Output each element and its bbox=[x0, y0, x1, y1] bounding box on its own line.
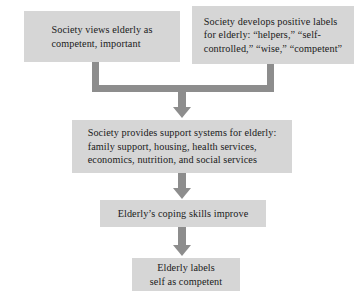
flowchart-node-labels-self-label: Elderly labels self as competent bbox=[150, 261, 222, 288]
connector-arrow-to-support-systems-head bbox=[173, 107, 191, 118]
flowchart-node-positive-labels: Society develops positive labels for eld… bbox=[192, 6, 354, 64]
connector-arrow-to-coping-skills-shaft bbox=[178, 173, 186, 189]
flowchart-node-coping-skills-label: Elderly’s coping skills improve bbox=[118, 207, 249, 220]
flowchart-node-coping-skills: Elderly’s coping skills improve bbox=[100, 200, 266, 227]
connector-arrow-to-support-systems-shaft bbox=[178, 92, 186, 108]
flowchart-node-support-systems: Society provides support systems for eld… bbox=[72, 120, 292, 173]
connector-bracket-horizontal-bar bbox=[92, 85, 274, 92]
connector-bracket-left-stem bbox=[92, 62, 99, 85]
connector-bracket-right-stem bbox=[267, 64, 274, 85]
flowchart-diagram: Society views elderly as competent, impo… bbox=[0, 0, 360, 303]
connector-arrow-to-labels-self-head bbox=[173, 245, 191, 256]
connector-arrow-to-labels-self-shaft bbox=[178, 227, 186, 246]
flowchart-node-labels-self: Elderly labels self as competent bbox=[132, 258, 240, 291]
flowchart-node-society-views: Society views elderly as competent, impo… bbox=[24, 11, 180, 62]
flowchart-node-positive-labels-label: Society develops positive labels for eld… bbox=[204, 15, 342, 55]
connector-arrow-to-coping-skills-head bbox=[173, 188, 191, 199]
flowchart-node-society-views-label: Society views elderly as competent, impo… bbox=[51, 23, 152, 50]
flowchart-node-support-systems-label: Society provides support systems for eld… bbox=[88, 126, 277, 166]
